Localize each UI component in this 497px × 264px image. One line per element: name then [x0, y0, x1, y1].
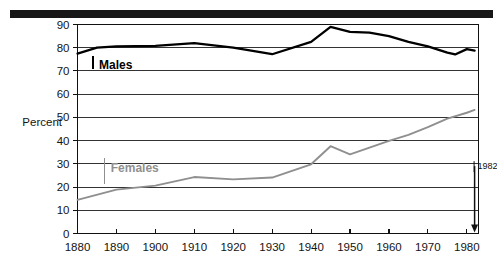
y-tick-label: 30 [57, 158, 70, 170]
x-tick-label: 1930 [259, 241, 285, 253]
chart-figure: 0102030405060708090 18801890190019101920… [0, 0, 497, 264]
y-tick-label: 40 [57, 135, 70, 147]
x-tick-label: 1980 [454, 241, 480, 253]
annotation-label-year: 1982 [478, 161, 497, 171]
x-tick-label: 1910 [181, 241, 207, 253]
series-inline-labels: MalesFemales [93, 56, 159, 184]
series-line-males [78, 27, 475, 55]
y-axis-tick-labels: 0102030405060708090 [57, 19, 78, 240]
chart-annotations: 1982 [471, 161, 497, 232]
x-tick-label: 1920 [220, 241, 246, 253]
y-tick-label: 20 [57, 181, 70, 193]
y-tick-label: 0 [63, 228, 69, 240]
annotation-arrow-head [471, 225, 478, 233]
line-chart: 0102030405060708090 18801890190019101920… [0, 0, 497, 264]
y-tick-label: 70 [57, 65, 70, 77]
x-tick-label: 1970 [415, 241, 441, 253]
x-axis-tick-labels: 1880189019001910192019301940195019601970… [65, 241, 480, 253]
y-axis-title: Percent [22, 116, 62, 128]
x-tick-label: 1900 [143, 241, 169, 253]
plot-frame [78, 25, 479, 234]
x-tick-label: 1960 [376, 241, 402, 253]
x-axis-ticks [78, 229, 467, 234]
y-tick-label: 60 [57, 88, 70, 100]
y-tick-label: 80 [57, 42, 70, 54]
y-tick-label: 10 [57, 204, 70, 216]
x-tick-label: 1890 [104, 241, 130, 253]
x-tick-label: 1940 [298, 241, 324, 253]
x-tick-label: 1880 [65, 241, 91, 253]
y-tick-label: 90 [57, 19, 70, 31]
gridlines [78, 48, 479, 211]
x-tick-label: 1950 [337, 241, 363, 253]
series-label-males: Males [99, 58, 133, 72]
series-line-females [78, 110, 475, 200]
series-label-females: Females [111, 161, 159, 175]
plot-border [78, 25, 479, 234]
